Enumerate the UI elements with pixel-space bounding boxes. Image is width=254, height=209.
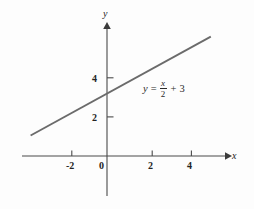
equation-equals: = xyxy=(150,84,158,95)
equation-lhs: y xyxy=(143,84,148,95)
x-axis-label: x xyxy=(232,151,236,161)
fraction-denominator: 2 xyxy=(160,89,167,99)
y-tick-label-2: 2 xyxy=(92,113,97,123)
x-axis-arrow-icon xyxy=(225,152,232,160)
y-axis-label: y xyxy=(103,9,107,19)
y-tick-label-4: 4 xyxy=(92,74,97,84)
equation-plus: + xyxy=(169,84,178,95)
equation-annotation: y = x 2 + 3 xyxy=(143,79,185,99)
fraction-numerator: x xyxy=(160,79,166,89)
equation-fraction: x 2 xyxy=(160,79,167,99)
y-axis-arrow-icon xyxy=(103,22,111,29)
origin-tick-label: 0 xyxy=(99,161,104,171)
graph-figure: y x -2 0 2 4 4 2 y = x 2 + 3 xyxy=(0,0,254,209)
x-tick-label--2: -2 xyxy=(66,161,74,171)
x-tick-label-2: 2 xyxy=(148,161,153,171)
x-tick-label-4: 4 xyxy=(187,161,192,171)
plot-canvas xyxy=(0,0,254,209)
equation-constant: 3 xyxy=(180,84,185,95)
